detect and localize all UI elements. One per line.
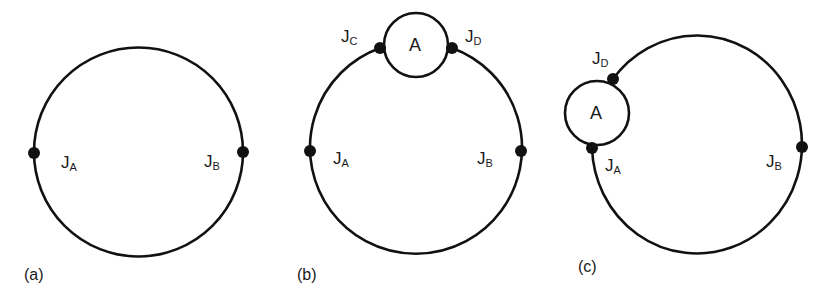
junction-label-b-ja: JA — [333, 150, 349, 169]
junction-label-c-jb: JB — [766, 153, 782, 172]
node-label-b: A — [409, 35, 421, 56]
caption-a: (a) — [24, 266, 44, 284]
junction-dot-b-jd — [446, 42, 458, 54]
junction-dot-c-jb — [796, 141, 808, 153]
junction-dot-a-jb — [237, 146, 249, 158]
junction-dot-b-jb — [515, 145, 527, 157]
junction-dot-b-ja — [304, 145, 316, 157]
junction-label-a-ja: JA — [61, 154, 77, 173]
caption-b: (b) — [297, 266, 317, 284]
junction-dot-c-jd — [607, 73, 619, 85]
junction-dot-c-ja — [586, 142, 598, 154]
junction-label-a-jb: JB — [204, 153, 220, 172]
loop-c — [592, 35, 802, 253]
junction-label-c-jd: JD — [592, 50, 608, 69]
junction-label-b-jd: JD — [465, 28, 481, 47]
caption-c: (c) — [578, 258, 597, 276]
junction-label-b-jb: JB — [477, 150, 493, 169]
node-label-c: A — [590, 103, 602, 124]
junction-dot-b-jc — [374, 42, 386, 54]
junction-label-c-ja: JA — [605, 157, 621, 176]
junction-label-b-jc: JC — [341, 28, 357, 47]
junction-dot-a-ja — [28, 147, 40, 159]
